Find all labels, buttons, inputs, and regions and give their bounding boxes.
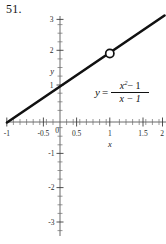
y-tick-label-1: 1 [50,81,54,90]
equation-fraction: x2− 1 x − 1 [111,79,149,105]
x-tick-label-0p5: 0.5 [72,129,82,138]
equation-numerator: x2− 1 [118,79,143,92]
y-axis-label: y [49,66,54,76]
equation-lhs: y [95,86,102,98]
y-tick-label-neg2: -2 [48,183,54,192]
y-tick-label-neg1: -1 [48,149,54,158]
graph-plot: -1 -0.5 0 0.5 1 1.5 2 3 2 1 -1 -2 -3 y x [0,0,166,244]
coordinate-plane: -1 -0.5 0 0.5 1 1.5 2 3 2 1 -1 -2 -3 y x [0,0,166,244]
equation-annotation: y = x2− 1 x − 1 [95,70,166,114]
x-tick-label-1p5: 1.5 [138,129,148,138]
open-circle-discontinuity [106,49,114,57]
y-tick-label-neg3: -3 [48,218,54,227]
y-tick-label-3: 3 [50,15,54,24]
x-tick-label-neg1: -1 [4,129,10,138]
equation-equals: = [102,86,111,98]
x-tick-label-1: 1 [108,129,112,138]
equation-denominator: x − 1 [118,93,143,105]
x-tick-label-zero: 0 [55,126,59,135]
y-tick-label-2: 2 [50,46,54,55]
x-tick-label-neg0p5: -0.5 [37,129,49,138]
x-axis-label: x [107,139,112,149]
figure-container: 51. [0,0,166,244]
numerator-tail: − 1 [127,80,140,91]
x-tick-label-2: 2 [160,129,164,138]
